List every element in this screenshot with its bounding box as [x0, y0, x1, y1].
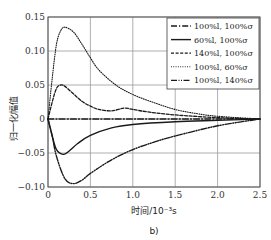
y-tick-label: 0.10 [25, 46, 45, 56]
legend-entry: 100%l, 140%σ [194, 76, 253, 85]
x-tick-label: 1.0 [126, 190, 141, 200]
x-tick-label: 0 [45, 190, 51, 200]
legend: 100%l, 100%σ60%l, 100%σ140%l, 100%σ100%l… [167, 18, 259, 89]
x-tick-label: 0.5 [83, 190, 98, 200]
y-axis-label: 归一化幅值 [8, 96, 19, 141]
x-axis-label: 时间/10⁻³s [131, 205, 177, 216]
x-tick-label: 2.0 [210, 190, 225, 200]
series-line [48, 85, 260, 119]
y-tick-label: −0.05 [17, 148, 45, 158]
panel-label: b) [149, 226, 158, 236]
legend-entry: 100%l, 100%σ [194, 22, 253, 31]
legend-entry: 60%l, 100%σ [194, 36, 248, 45]
x-tick-label: 1.5 [168, 190, 183, 200]
y-tick-label: 0.05 [25, 80, 45, 90]
y-tick-label: −0.10 [17, 182, 45, 192]
x-tick-label: 2.5 [253, 190, 268, 200]
x-tick-labels: 00.51.01.52.02.5 [45, 190, 267, 200]
legend-entry: 140%l, 100%σ [194, 49, 253, 58]
legend-entry: 100%l, 60%σ [194, 63, 248, 72]
y-tick-labels: 0.150.100.050−0.05−0.10 [17, 12, 45, 192]
y-tick-label: 0.15 [25, 12, 45, 22]
series-line [48, 119, 260, 184]
y-tick-label: 0 [39, 114, 45, 124]
line-chart: 0.150.100.050−0.05−0.10 00.51.01.52.02.5… [0, 0, 271, 240]
